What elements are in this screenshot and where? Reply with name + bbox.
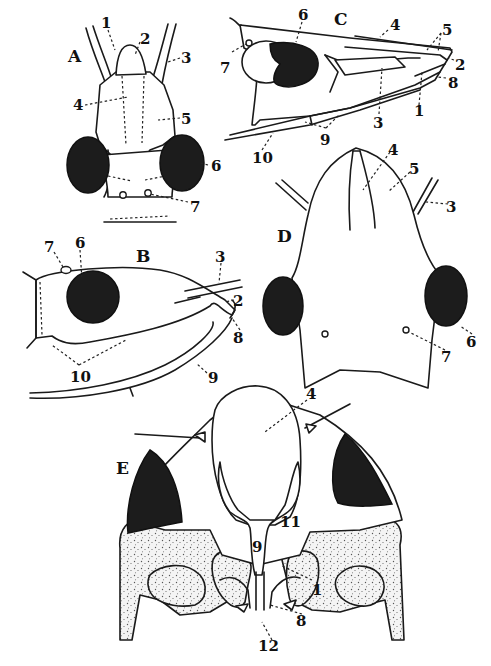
label-5-c: 5	[442, 21, 452, 39]
panel-c: C 6 4 5 7 2 8 1 3 9 10	[220, 6, 465, 167]
label-1-e: 1	[312, 581, 322, 599]
label-4-c: 4	[390, 16, 400, 34]
label-8-b: 8	[233, 329, 243, 347]
label-3-a: 3	[181, 49, 191, 67]
label-3-b: 3	[215, 248, 225, 266]
panel-b-letter: B	[136, 246, 150, 266]
label-6-a: 6	[211, 157, 221, 175]
label-6-c: 6	[298, 6, 308, 24]
leader-9-b	[196, 363, 207, 373]
label-4-e: 4	[306, 385, 316, 403]
panel-b: B 7 6 3 2 8 10 9	[23, 234, 243, 398]
ocellus-right-a	[145, 190, 151, 196]
leader-7-b	[54, 252, 63, 267]
label-10-b: 10	[70, 368, 91, 386]
label-6-b: 6	[75, 234, 85, 252]
compound-eye-right-a	[160, 135, 204, 191]
label-6-d: 6	[466, 333, 476, 351]
label-3-d: 3	[446, 198, 456, 216]
label-2-a: 2	[140, 30, 150, 48]
label-2-b: 2	[233, 292, 243, 310]
label-9-b: 9	[208, 369, 218, 387]
leader-10-b	[52, 340, 126, 365]
panel-d: D 4 5 3 6 7	[263, 141, 476, 388]
insect-head-figure: A 1 2 3 4 5 6 7	[0, 0, 491, 666]
leader-8-c	[437, 77, 446, 78]
antenna-right-inner	[162, 24, 176, 84]
ocellus-left-d	[322, 331, 328, 337]
occipital-suture-a	[110, 216, 170, 219]
panel-c-letter: C	[334, 9, 348, 29]
label-2-c: 2	[455, 56, 465, 74]
rostrum-e	[256, 572, 264, 610]
leader-4-c	[380, 30, 388, 37]
leader-2-c	[448, 58, 454, 60]
ocellus-b	[61, 267, 71, 274]
label-7-a: 7	[190, 198, 200, 216]
compound-eye-b	[67, 271, 119, 323]
label-8-c: 8	[448, 74, 458, 92]
ocellus-c	[246, 40, 252, 46]
label-8-e: 8	[296, 612, 306, 630]
label-7-c: 7	[220, 59, 230, 77]
label-5-a: 5	[181, 110, 191, 128]
claw-left-e	[236, 604, 248, 612]
label-10-c: 10	[252, 149, 273, 167]
leader-10-c	[262, 133, 273, 150]
label-3-c: 3	[373, 114, 383, 132]
label-7-b: 7	[44, 238, 54, 256]
label-9-e: 9	[252, 538, 262, 556]
panel-d-letter: D	[277, 226, 292, 246]
label-4-a: 4	[73, 96, 83, 114]
leader-3-a	[168, 58, 180, 62]
labium-segment-b	[130, 388, 133, 396]
antenna-right-outer	[152, 24, 168, 80]
antenna-left-outer	[86, 28, 105, 82]
panel-e: E 4 11 9 1 8	[116, 385, 404, 655]
panel-a: A 1 2 3 4 5 6 7	[67, 14, 221, 222]
head-capsule-b	[36, 268, 235, 344]
label-1-c: 1	[414, 102, 424, 120]
label-5-d: 5	[409, 160, 419, 178]
coxa-left-e	[148, 566, 205, 607]
leader-3-b	[219, 263, 221, 283]
leader-1-a	[108, 30, 115, 50]
compound-eye-right-d	[425, 266, 467, 326]
neck-c	[230, 18, 241, 26]
antenna-left-inner	[93, 26, 112, 80]
ocellus-left-a	[120, 192, 126, 198]
leader-3-d	[426, 202, 448, 204]
panel-a-letter: A	[67, 46, 82, 66]
label-11-e: 11	[280, 513, 301, 531]
panel-e-letter: E	[116, 458, 129, 478]
compound-eye-left-a	[67, 137, 109, 193]
compound-eye-right-e	[333, 434, 392, 506]
label-7-d: 7	[441, 348, 451, 366]
claw-right-e	[284, 600, 296, 610]
label-9-c: 9	[320, 131, 330, 149]
clypeus-a	[116, 45, 146, 75]
antenna-left-e	[135, 434, 200, 438]
label-1-a: 1	[101, 14, 111, 32]
compound-eye-left-d	[263, 277, 303, 335]
label-4-d: 4	[388, 141, 398, 159]
head-capsule-d	[292, 148, 440, 388]
neck-b	[23, 272, 36, 348]
label-12-e: 12	[258, 637, 279, 655]
ocellus-right-d	[403, 327, 409, 333]
